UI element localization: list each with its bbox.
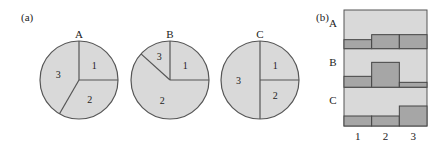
figure: (a) A123B123C123 (b) ABC123 (0, 0, 445, 145)
bar (372, 62, 400, 87)
slice-label: 2 (87, 94, 92, 105)
row-label: C (329, 94, 336, 106)
bar (399, 106, 427, 126)
pie-title: B (166, 28, 173, 40)
slice-label: 1 (273, 60, 278, 71)
slice-label: 3 (236, 75, 241, 86)
slice-label: 2 (160, 95, 165, 106)
slice-label: 2 (273, 90, 278, 101)
bar (344, 76, 372, 87)
pie-c: C123 (221, 28, 299, 119)
bar (344, 116, 372, 126)
pie-title: C (256, 28, 263, 40)
bar-grid: ABC123 (329, 10, 427, 142)
pie-b: B123 (131, 28, 209, 119)
bar (399, 82, 427, 87)
row-label: A (329, 17, 337, 29)
column-label: 3 (410, 130, 416, 142)
pie-a: A123 (40, 28, 118, 119)
row-label: B (329, 56, 336, 68)
bar (399, 35, 427, 49)
slice-label: 3 (157, 51, 162, 62)
bar (372, 35, 400, 49)
bar (372, 116, 400, 126)
column-label: 2 (383, 130, 389, 142)
bar (344, 40, 372, 49)
column-label: 1 (355, 130, 361, 142)
panel-b-label: (b) (316, 11, 329, 24)
pie-title: A (75, 28, 83, 40)
panel-a-label: (a) (21, 11, 34, 24)
slice-label: 1 (92, 60, 97, 71)
slice-label: 1 (183, 60, 188, 71)
slice-label: 3 (56, 69, 61, 80)
pie-charts: A123B123C123 (40, 28, 299, 119)
